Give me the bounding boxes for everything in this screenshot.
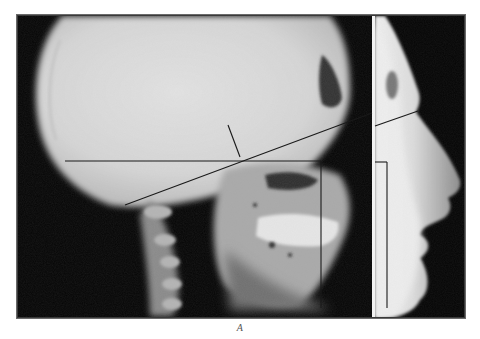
cephalometric-figure: A bbox=[0, 0, 480, 339]
figure-caption: A bbox=[0, 322, 480, 333]
soft-tissue-profile-panel bbox=[375, 16, 464, 318]
radiograph-plate bbox=[0, 0, 480, 339]
skull-radiograph-panel bbox=[18, 16, 372, 317]
panel-divider bbox=[372, 15, 375, 318]
